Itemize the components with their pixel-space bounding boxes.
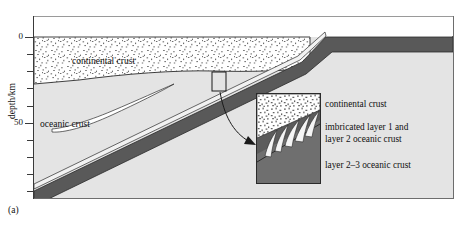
y-tick-minor [27,54,33,55]
y-tick-major [25,123,33,124]
label-continental-crust: continental crust [72,56,135,66]
y-tick-minor [27,106,33,107]
y-tick-minor [27,157,33,158]
geology-layers [34,16,453,199]
y-tick-minor [27,71,33,72]
detail-region-box [212,72,226,91]
panel-tag: (a) [8,205,19,215]
inset-geology [257,94,320,183]
inset-label-imbricated-line2: layer 2 oceanic crust [325,134,402,144]
detail-inset [256,93,321,184]
y-tick-minor [27,140,33,141]
inset-label-continental-crust: continental crust [325,99,387,111]
cross-section-plot: continental crust oceanic crust [34,16,454,199]
plot-frame-top [34,16,453,17]
y-tick-minor [27,191,33,192]
label-oceanic-crust: oceanic crust [40,119,90,129]
inset-label-imbricated: imbricated layer 1 and layer 2 oceanic c… [325,122,408,145]
inset-label-layer23: layer 2–3 oceanic crust [325,160,411,172]
y-tick-major [25,37,33,38]
detail-callout-arrowhead [244,136,256,145]
y-axis-title: depth/km [7,71,17,131]
y-tick-minor [27,88,33,89]
plot-frame-bottom [34,198,453,199]
y-tick-minor [27,174,33,175]
inset-label-imbricated-line1: imbricated layer 1 and [325,122,408,132]
figure-panel: 0 50 depth/km [0,0,454,243]
y-tick-label-0: 0 [1,32,23,41]
